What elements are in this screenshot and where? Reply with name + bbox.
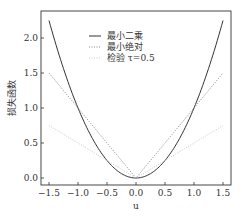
x-axis-label: u [133,201,139,211]
series-line-2 [49,126,223,179]
legend-label-least-squares: 最小二乘 [107,30,143,41]
x-tick-label: 0.5 [158,188,173,198]
x-tick-label: 1.0 [187,188,202,198]
y-tick-label: 1.5 [24,68,39,78]
x-axis-ticks: −1.5−1.0−0.50.00.51.01.5 [38,182,230,198]
x-tick-label: 0.0 [129,188,144,198]
y-tick-label: 1.0 [24,103,39,113]
y-tick-label: 0.5 [24,138,39,148]
loss-function-chart: −1.5−1.0−0.50.00.51.01.5 0.00.51.01.52.0… [0,0,242,218]
y-tick-label: 0.0 [24,173,39,183]
legend-label-least-absolute: 最小绝对 [107,41,143,52]
x-tick-label: −0.5 [96,188,118,198]
series-line-1 [49,73,223,178]
x-tick-label: −1.5 [38,188,60,198]
y-axis-label: 损失函数 [6,80,17,116]
legend-label-quantile: 检验 τ=0.5 [107,52,155,63]
x-tick-label: 1.5 [216,188,231,198]
y-tick-label: 2.0 [24,33,39,43]
legend: 最小二乘 最小绝对 检验 τ=0.5 [89,30,155,63]
x-tick-label: −1.0 [67,188,89,198]
